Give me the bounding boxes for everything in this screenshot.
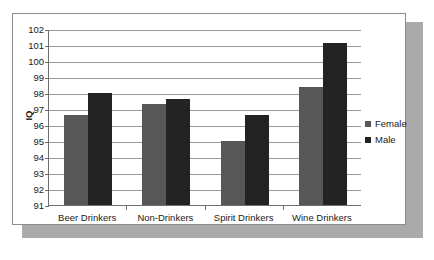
- x-axis-tick-mark: [205, 206, 206, 210]
- y-axis-tick-mark: [45, 30, 49, 31]
- y-axis-tick-mark: [45, 110, 49, 111]
- gridline: [49, 46, 361, 47]
- y-axis-tick-label: 91: [33, 201, 44, 211]
- gridline: [49, 30, 361, 31]
- x-axis-category-label: Wine Drinkers: [292, 212, 352, 223]
- y-axis-tick-mark: [45, 174, 49, 175]
- y-axis-tick-label: 96: [33, 121, 44, 131]
- bar-female-non-drinkers: [142, 104, 166, 205]
- bar-male-beer-drinkers: [88, 93, 112, 205]
- chart-container: IQ 102101100999897969594939291 Beer Drin…: [12, 13, 406, 225]
- y-axis-tick-mark: [45, 142, 49, 143]
- y-axis-tick-mark: [45, 94, 49, 95]
- y-axis-tick-label: 93: [33, 169, 44, 179]
- y-axis-tick-label: 102: [28, 25, 44, 35]
- legend-swatch-male-icon: [365, 137, 371, 143]
- chart-legend: FemaleMale: [365, 116, 413, 148]
- y-axis-tick-mark: [45, 190, 49, 191]
- x-axis-category-label: Non-Drinkers: [137, 212, 193, 223]
- legend-swatch-female-icon: [365, 121, 371, 127]
- y-axis-tick-label: 100: [28, 57, 44, 67]
- y-axis-tick-mark: [45, 158, 49, 159]
- y-axis-tick-label: 92: [33, 185, 44, 195]
- legend-label: Female: [375, 119, 407, 129]
- y-axis-tick-label: 99: [33, 73, 44, 83]
- legend-item-male[interactable]: Male: [365, 132, 413, 148]
- plot-area: [48, 30, 361, 206]
- bar-male-spirit-drinkers: [245, 115, 269, 205]
- gridline: [49, 62, 361, 63]
- bar-male-wine-drinkers: [323, 43, 347, 205]
- y-axis-tick-mark: [45, 46, 49, 47]
- bar-female-beer-drinkers: [64, 115, 88, 205]
- y-axis-tick-label: 101: [28, 41, 44, 51]
- x-axis-tick-marks: [48, 206, 361, 211]
- x-axis-tick-mark: [126, 206, 127, 210]
- y-axis-tick-label: 98: [33, 89, 44, 99]
- y-axis-tick-label: 94: [33, 153, 44, 163]
- legend-label: Male: [375, 135, 396, 145]
- y-axis-tick-mark: [45, 62, 49, 63]
- y-axis-tick-mark: [45, 126, 49, 127]
- y-axis-tick-labels: 102101100999897969594939291: [13, 30, 44, 206]
- y-axis-tick-mark: [45, 78, 49, 79]
- y-axis-tick-label: 97: [33, 105, 44, 115]
- bar-female-wine-drinkers: [299, 87, 323, 205]
- x-axis-tick-mark: [283, 206, 284, 210]
- bar-male-non-drinkers: [166, 99, 190, 205]
- bar-female-spirit-drinkers: [221, 141, 245, 205]
- y-axis-tick-label: 95: [33, 137, 44, 147]
- x-axis-category-labels: Beer DrinkersNon-DrinkersSpirit Drinkers…: [48, 212, 361, 228]
- gridline: [49, 78, 361, 79]
- x-axis-category-label: Spirit Drinkers: [214, 212, 274, 223]
- x-axis-category-label: Beer Drinkers: [58, 212, 116, 223]
- legend-item-female[interactable]: Female: [365, 116, 413, 132]
